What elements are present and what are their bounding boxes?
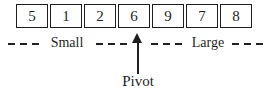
dash-separator (151, 43, 182, 45)
pivot-label: Pivot (113, 74, 163, 89)
array-cell: 7 (186, 4, 218, 28)
array-cell: 9 (152, 4, 184, 28)
array-row: 5 1 2 6 9 7 8 (16, 4, 252, 28)
arrow-stem (137, 41, 139, 74)
array-cell: 8 (220, 4, 252, 28)
dash-separator (232, 43, 263, 45)
dash-separator (96, 43, 127, 45)
dash-separator (8, 43, 39, 45)
array-cell: 2 (84, 4, 116, 28)
pivot-arrow-icon (132, 33, 143, 74)
small-region-label: Small (48, 36, 86, 50)
array-cell: 1 (50, 4, 82, 28)
quicksort-partition-diagram: 5 1 2 6 9 7 8 Small Large Pivot (0, 0, 275, 92)
array-cell-pivot: 6 (118, 4, 150, 28)
large-region-label: Large (188, 36, 228, 50)
array-cell: 5 (16, 4, 48, 28)
